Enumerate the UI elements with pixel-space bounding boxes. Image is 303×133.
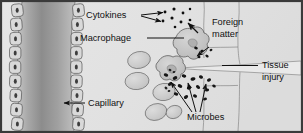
label-foreign-matter-line2: matter (212, 29, 238, 39)
label-tissue-injury-line1: Tissue (262, 60, 289, 70)
cytokine (182, 12, 185, 15)
capillary-lumen (18, 2, 75, 131)
figure-canvas: Cytokines Macrophage Foreign matter Tiss… (0, 0, 303, 133)
cytokine (189, 19, 192, 22)
capillary (9, 2, 84, 131)
inflammatory-response-figure: Cytokines Macrophage Foreign matter Tiss… (0, 0, 303, 133)
cytokine (164, 11, 167, 14)
cytokine (172, 7, 175, 10)
label-foreign-matter-line1: Foreign (212, 17, 243, 27)
cytokine (170, 16, 173, 19)
label-capillary: Capillary (88, 98, 124, 108)
cytokine (180, 21, 183, 24)
label-cytokines: Cytokines (86, 10, 127, 20)
label-tissue-injury-line2: injury (262, 72, 284, 82)
cytokine (189, 8, 192, 11)
label-microbes: Microbes (187, 112, 225, 122)
cytokine (174, 26, 177, 29)
label-macrophage: Macrophage (80, 33, 131, 43)
cytokine (162, 20, 165, 23)
